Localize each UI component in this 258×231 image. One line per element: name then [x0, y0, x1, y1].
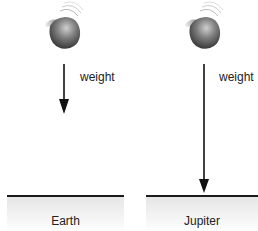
arrowhead-icon [59, 99, 69, 114]
planet-label-jupiter: Jupiter [146, 214, 258, 228]
falling-ball-jupiter [185, 2, 223, 49]
ground-jupiter: Jupiter [146, 195, 258, 231]
weight-label-earth: weight [80, 70, 115, 84]
weight-label-jupiter: weight [219, 70, 254, 84]
motion-line-icon [60, 9, 78, 16]
falling-ball-earth [45, 2, 83, 49]
ball-icon [49, 17, 80, 49]
weight-arrow-earth [59, 64, 69, 114]
ball-icon [189, 17, 220, 49]
motion-line-icon [200, 9, 218, 16]
planet-label-earth: Earth [7, 214, 124, 228]
weight-arrow-jupiter [199, 64, 209, 193]
ground-earth: Earth [7, 195, 124, 231]
arrowhead-icon [199, 179, 209, 193]
